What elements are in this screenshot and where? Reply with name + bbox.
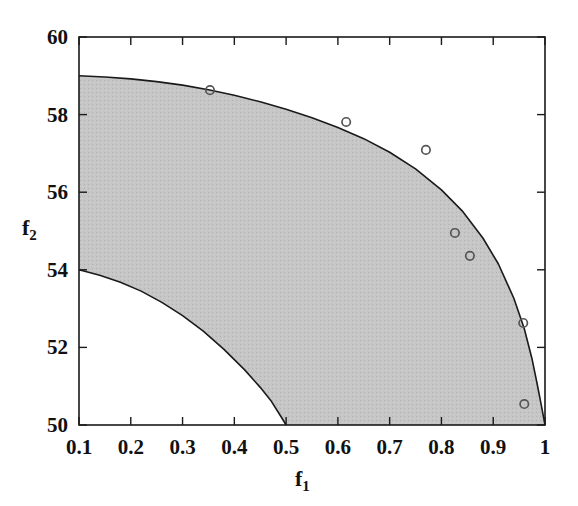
feasible-region <box>79 76 545 425</box>
x-axis-title: f1 <box>295 466 310 495</box>
chart-figure: 5052545658600.10.20.30.40.50.60.70.80.91… <box>0 0 578 506</box>
data-point-marker[interactable] <box>422 146 430 154</box>
y-axis-title: f2 <box>22 215 37 244</box>
data-point-marker[interactable] <box>342 118 350 126</box>
x-tick-label: 1 <box>515 435 575 460</box>
y-tick-label: 60 <box>18 25 68 50</box>
y-tick-label: 58 <box>18 103 68 128</box>
plot-canvas <box>0 0 578 506</box>
y-tick-label: 56 <box>18 180 68 205</box>
y-tick-label: 52 <box>18 335 68 360</box>
y-tick-label: 54 <box>18 258 68 283</box>
